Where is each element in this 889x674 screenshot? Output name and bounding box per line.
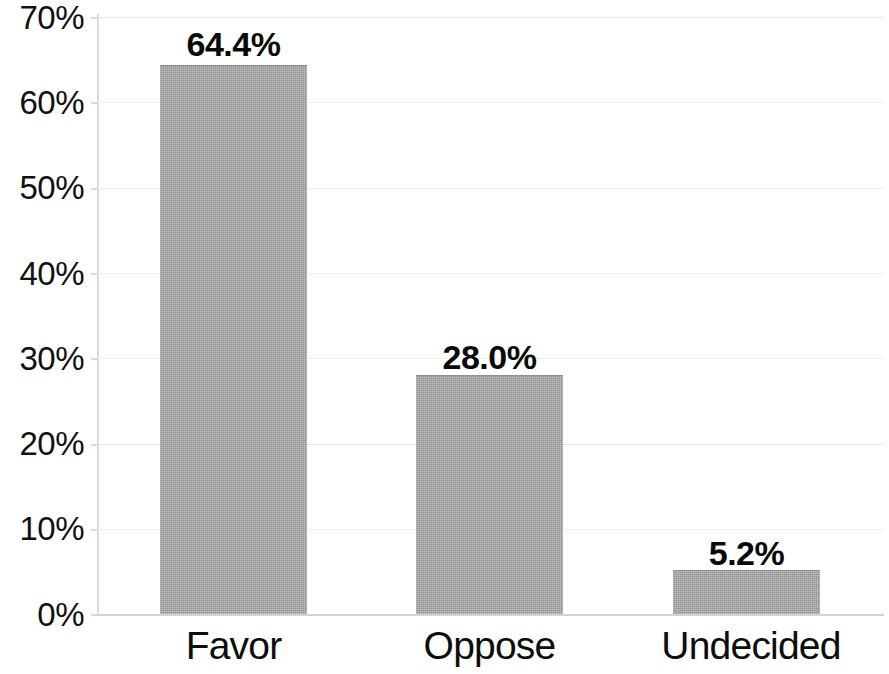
bar-chart: 70% 60% 50% 40% 30% 20% 10% 0% 64.4% 28.… [0,0,889,674]
bar-undecided[interactable] [673,570,820,614]
category-label-oppose: Oppose [406,624,573,668]
y-axis-tick-labels: 70% 60% 50% 40% 30% 20% 10% 0% [0,0,84,674]
category-label-undecided: Undecided [655,624,847,668]
plot-area [98,14,884,614]
bar-value-label-undecided: 5.2% [673,536,820,570]
y-axis-tick-label: 50% [0,171,84,204]
y-axis-tick-label: 60% [0,86,84,119]
bar-favor[interactable] [160,65,307,614]
bar-oppose[interactable] [416,375,563,614]
category-label-favor: Favor [150,624,317,668]
bar-value-label-oppose: 28.0% [416,340,563,374]
gridline-70 [98,17,884,18]
y-axis-tick-label: 20% [0,427,84,460]
y-axis-tick-label: 30% [0,342,84,375]
y-axis-tick-label: 70% [0,1,84,34]
y-axis-tick-label: 40% [0,257,84,290]
x-axis-line [97,614,884,616]
bar-value-label-favor: 64.4% [160,27,307,61]
y-axis-tick-label: 0% [0,598,84,631]
y-axis-tick-label: 10% [0,512,84,545]
